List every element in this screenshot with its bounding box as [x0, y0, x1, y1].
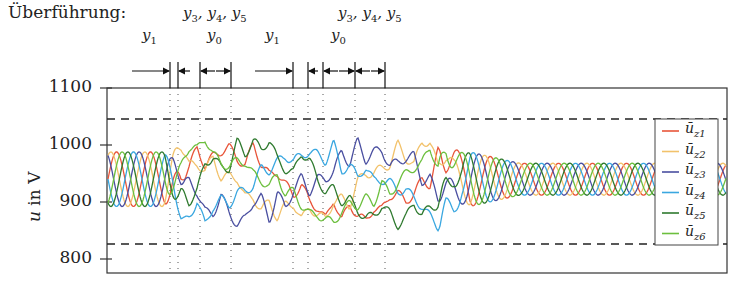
legend-item-z3: ūz3	[685, 161, 706, 180]
legend-item-z5: ūz5	[685, 202, 706, 221]
legend-item-z1: ūz1	[685, 120, 706, 139]
plot-area	[0, 0, 744, 283]
legend-item-z6: ūz6	[685, 223, 706, 242]
legend-item-z2: ūz2	[685, 141, 706, 160]
legend-item-z4: ūz4	[685, 182, 706, 201]
series-line-z1	[108, 143, 726, 218]
